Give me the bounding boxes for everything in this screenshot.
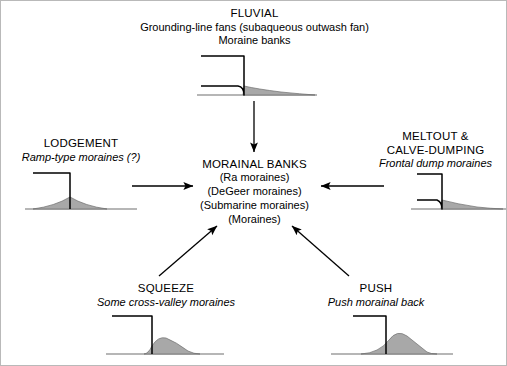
- arrow-squeeze-to-center: [159, 226, 217, 276]
- arrow-layer: [1, 1, 507, 366]
- morainal-banks-diagram: FLUVIAL Grounding-line fans (subaqueous …: [0, 0, 507, 366]
- arrow-push-to-center: [292, 226, 349, 276]
